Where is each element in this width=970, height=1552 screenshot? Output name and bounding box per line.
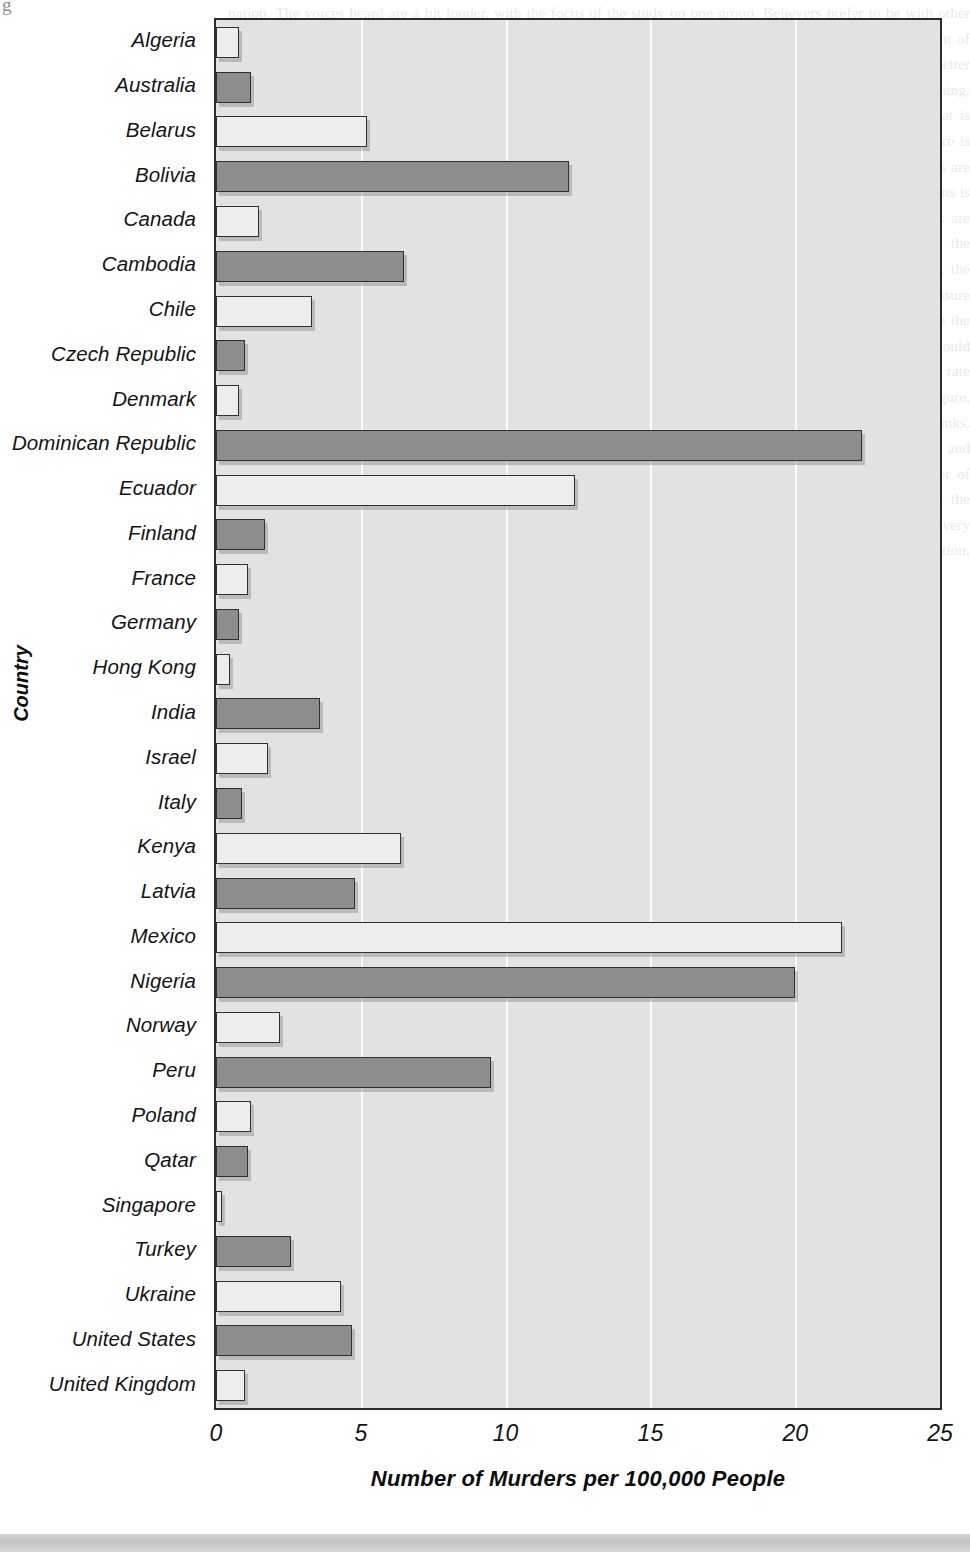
plot-area	[214, 18, 942, 1410]
bar-chile[interactable]	[216, 296, 312, 327]
bar-row	[216, 1274, 940, 1319]
y-axis-label-peru: Peru	[152, 1048, 196, 1093]
bar-row	[216, 826, 940, 871]
bar-united-kingdom[interactable]	[216, 1370, 245, 1401]
bar-row	[216, 1184, 940, 1229]
bar-turkey[interactable]	[216, 1236, 291, 1267]
x-axis-title: Number of Murders per 100,000 People	[214, 1466, 942, 1492]
bar-latvia[interactable]	[216, 878, 355, 909]
x-tick-20: 20	[782, 1420, 808, 1447]
bar-row	[216, 378, 940, 423]
bar-row	[216, 154, 940, 199]
bar-row	[216, 20, 940, 65]
y-axis-label-israel: Israel	[145, 734, 196, 779]
y-axis-label-kenya: Kenya	[137, 824, 196, 869]
bar-row	[216, 1095, 940, 1140]
y-axis-label-denmark: Denmark	[112, 376, 196, 421]
y-axis-label-canada: Canada	[124, 197, 196, 242]
bar-canada[interactable]	[216, 206, 259, 237]
y-axis-label-poland: Poland	[132, 1093, 196, 1138]
bar-row	[216, 557, 940, 602]
x-tick-15: 15	[638, 1420, 664, 1447]
bar-united-states[interactable]	[216, 1325, 352, 1356]
bar-row	[216, 1229, 940, 1274]
y-axis-label-dominican-republic: Dominican Republic	[12, 421, 196, 466]
y-axis-label-bolivia: Bolivia	[135, 152, 196, 197]
x-tick-10: 10	[493, 1420, 519, 1447]
y-axis-label-finland: Finland	[128, 511, 196, 556]
bar-cambodia[interactable]	[216, 251, 404, 282]
bar-hong-kong[interactable]	[216, 654, 230, 685]
scanned-page: g nation. The voices heard are a bit lou…	[0, 0, 970, 1552]
bar-czech-republic[interactable]	[216, 340, 245, 371]
bar-bolivia[interactable]	[216, 161, 569, 192]
bar-finland[interactable]	[216, 519, 265, 550]
bar-france[interactable]	[216, 564, 248, 595]
bar-row	[216, 1139, 940, 1184]
bar-kenya[interactable]	[216, 833, 401, 864]
bar-poland[interactable]	[216, 1101, 251, 1132]
bar-row	[216, 602, 940, 647]
y-axis-label-algeria: Algeria	[131, 18, 196, 63]
page-bottom-edge	[0, 1534, 970, 1552]
y-axis-label-singapore: Singapore	[102, 1182, 196, 1227]
bar-row	[216, 781, 940, 826]
bar-row	[216, 736, 940, 781]
bar-nigeria[interactable]	[216, 967, 795, 998]
bar-india[interactable]	[216, 698, 320, 729]
y-axis-label-hong-kong: Hong Kong	[93, 645, 196, 690]
bar-australia[interactable]	[216, 72, 251, 103]
bar-dominican-republic[interactable]	[216, 430, 862, 461]
y-axis-label-india: India	[151, 690, 196, 735]
bar-algeria[interactable]	[216, 27, 239, 58]
y-axis-label-czech-republic: Czech Republic	[51, 331, 196, 376]
y-axis-label-chile: Chile	[149, 287, 196, 332]
bar-row	[216, 692, 940, 737]
y-axis-label-ukraine: Ukraine	[125, 1272, 196, 1317]
y-axis-label-norway: Norway	[126, 1003, 196, 1048]
y-axis-label-nigeria: Nigeria	[130, 958, 196, 1003]
y-axis-label-cambodia: Cambodia	[102, 242, 196, 287]
y-axis-label-ecuador: Ecuador	[119, 466, 196, 511]
y-axis-label-italy: Italy	[158, 779, 196, 824]
x-tick-0: 0	[210, 1420, 223, 1447]
y-axis-label-turkey: Turkey	[134, 1227, 196, 1272]
bar-row	[216, 1318, 940, 1363]
bar-denmark[interactable]	[216, 385, 239, 416]
bar-row	[216, 1050, 940, 1095]
bar-row	[216, 423, 940, 468]
bar-row	[216, 289, 940, 334]
bar-qatar[interactable]	[216, 1146, 248, 1177]
y-axis-label-qatar: Qatar	[144, 1137, 196, 1182]
y-axis-label-latvia: Latvia	[141, 869, 196, 914]
bar-israel[interactable]	[216, 743, 268, 774]
bar-row	[216, 244, 940, 289]
y-axis-label-united-states: United States	[72, 1316, 196, 1361]
bar-row	[216, 915, 940, 960]
bar-row	[216, 333, 940, 378]
bar-row	[216, 513, 940, 558]
bar-row	[216, 647, 940, 692]
bar-mexico[interactable]	[216, 922, 842, 953]
bar-row	[216, 960, 940, 1005]
bar-belarus[interactable]	[216, 116, 367, 147]
x-tick-5: 5	[354, 1420, 367, 1447]
bar-peru[interactable]	[216, 1057, 491, 1088]
bar-ecuador[interactable]	[216, 475, 575, 506]
bar-singapore[interactable]	[216, 1191, 222, 1222]
y-axis-label-australia: Australia	[115, 63, 196, 108]
x-tick-25: 25	[927, 1420, 953, 1447]
bar-ukraine[interactable]	[216, 1281, 341, 1312]
bar-germany[interactable]	[216, 609, 239, 640]
bar-row	[216, 1363, 940, 1408]
y-axis-label-belarus: Belarus	[126, 108, 196, 153]
murder-rate-bar-chart: Country AlgeriaAustraliaBelarusBoliviaCa…	[0, 0, 970, 1552]
bar-norway[interactable]	[216, 1012, 280, 1043]
y-axis-label-france: France	[132, 555, 196, 600]
bar-row	[216, 468, 940, 513]
y-axis-label-germany: Germany	[111, 600, 196, 645]
bar-row	[216, 65, 940, 110]
bar-row	[216, 871, 940, 916]
y-axis-label-mexico: Mexico	[130, 913, 196, 958]
bar-italy[interactable]	[216, 788, 242, 819]
